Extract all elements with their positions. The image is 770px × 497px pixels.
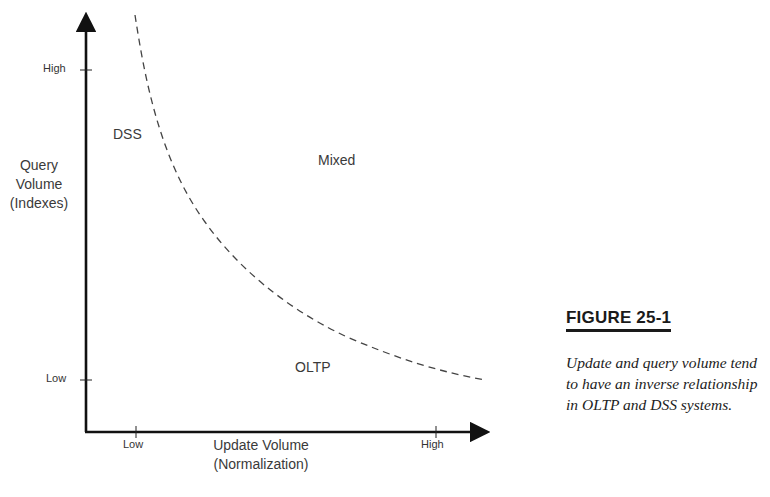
y-axis-title-line1: Query [0, 156, 78, 175]
x-axis-title: Update Volume (Normalization) [196, 436, 326, 474]
inverse-relationship-curve [135, 15, 485, 380]
y-tick-label-low: Low [46, 372, 66, 384]
figure-caption: Update and query volume tend to have an … [566, 352, 770, 415]
region-label-mixed: Mixed [318, 152, 355, 168]
y-tick-label-high: High [43, 62, 66, 74]
x-axis-title-line1: Update Volume [196, 436, 326, 455]
figure-title: FIGURE 25-1 [566, 308, 671, 332]
region-label-dss: DSS [113, 126, 142, 142]
x-tick-label-low: Low [123, 438, 143, 450]
chart-canvas [0, 0, 770, 497]
y-axis-title: Query Volume (Indexes) [0, 156, 78, 213]
y-axis-title-line3: (Indexes) [0, 194, 78, 213]
x-axis-title-line2: (Normalization) [196, 455, 326, 474]
region-label-oltp: OLTP [295, 359, 331, 375]
y-axis-title-line2: Volume [0, 175, 78, 194]
x-tick-label-high: High [421, 438, 444, 450]
